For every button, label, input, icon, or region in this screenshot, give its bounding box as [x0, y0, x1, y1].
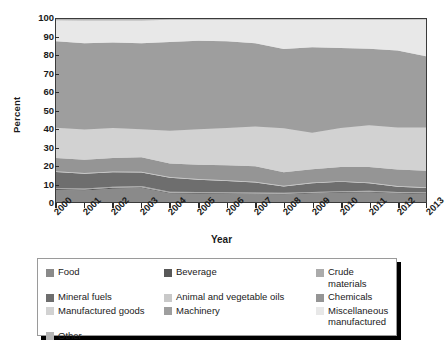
stacked-area-plot [55, 18, 427, 203]
legend-label-crude-materials: Crude materials [328, 266, 392, 289]
legend-item-chemicals: Chemicals [316, 291, 392, 303]
y-tickmark-90 [55, 37, 59, 38]
legend-swatch-crude-materials [316, 269, 324, 277]
y-tickmark-30 [55, 148, 59, 149]
legend-item-beverage: Beverage [164, 266, 316, 289]
legend-item-food: Food [46, 266, 164, 289]
y-tick-30: 30 [24, 142, 54, 154]
y-tickmark-40 [55, 129, 59, 130]
legend-label-machinery: Machinery [176, 305, 220, 317]
legend-label-chemicals: Chemicals [328, 291, 372, 303]
legend-swatch-beverage [164, 269, 172, 277]
legend-swatch-other [46, 332, 54, 340]
y-tick-50: 50 [24, 105, 54, 117]
legend-item-machinery: Machinery [164, 305, 316, 328]
legend-swatch-food [46, 269, 54, 277]
legend-label-manufactured-goods: Manufactured goods [58, 305, 145, 317]
y-axis-label: Percent [8, 70, 24, 160]
y-tick-70: 70 [24, 68, 54, 80]
area-series-machinery [56, 41, 426, 133]
y-tickmark-60 [55, 92, 59, 93]
y-tick-40: 40 [24, 123, 54, 135]
legend-item-mineral-fuels: Mineral fuels [46, 291, 164, 303]
legend-item-animal-and-vegetable-oils: Animal and vegetable oils [164, 291, 316, 303]
y-tick-60: 60 [24, 86, 54, 98]
legend-item-other: Other [46, 330, 164, 342]
legend-label-other: Other [58, 330, 82, 342]
y-axis-tick-labels: 1009080706050403020100 [24, 12, 54, 210]
y-tickmark-50 [55, 111, 59, 112]
legend-item-miscellaneous-manufactured: Miscellaneous manufactured [316, 305, 392, 328]
chart-area: Percent 1009080706050403020100 200020012… [0, 0, 443, 255]
chart-legend: FoodBeverageCrude materialsMineral fuels… [37, 258, 397, 336]
x-tick-2013: 2013 [424, 195, 446, 217]
y-tick-90: 90 [24, 31, 54, 43]
legend-spacer [164, 330, 316, 342]
legend-item-crude-materials: Crude materials [316, 266, 392, 289]
y-tick-20: 20 [24, 160, 54, 172]
legend-swatch-miscellaneous-manufactured [316, 307, 324, 315]
legend-grid: FoodBeverageCrude materialsMineral fuels… [38, 259, 396, 335]
legend-swatch-chemicals [316, 294, 324, 302]
legend-swatch-mineral-fuels [46, 294, 54, 302]
legend-swatch-manufactured-goods [46, 307, 54, 315]
y-tick-10: 10 [24, 179, 54, 191]
y-tick-0: 0 [24, 197, 54, 209]
legend-label-miscellaneous-manufactured: Miscellaneous manufactured [328, 305, 388, 328]
legend-label-animal-and-vegetable-oils: Animal and vegetable oils [176, 291, 284, 303]
y-tick-100: 100 [24, 12, 54, 24]
stacked-area-svg [56, 19, 426, 202]
legend-label-food: Food [58, 266, 80, 278]
y-tick-80: 80 [24, 49, 54, 61]
legend-label-beverage: Beverage [176, 266, 217, 278]
y-tickmark-70 [55, 74, 59, 75]
y-tickmark-20 [55, 166, 59, 167]
y-tickmark-80 [55, 55, 59, 56]
y-tickmark-10 [55, 185, 59, 186]
legend-label-mineral-fuels: Mineral fuels [58, 291, 112, 303]
legend-item-manufactured-goods: Manufactured goods [46, 305, 164, 328]
x-axis-label: Year [0, 234, 443, 245]
legend-swatch-machinery [164, 307, 172, 315]
legend-swatch-animal-and-vegetable-oils [164, 294, 172, 302]
legend-spacer [316, 330, 392, 342]
